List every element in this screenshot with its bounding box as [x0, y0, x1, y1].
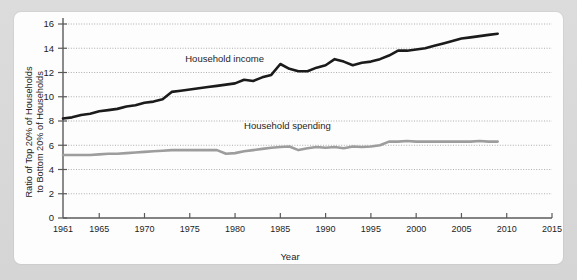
x-tick-label: 1965 [89, 224, 109, 234]
series-line-household-income [63, 34, 498, 119]
page-background: 0246810121416 19611965197019751980198519… [0, 0, 577, 280]
x-tick-label: 2005 [451, 224, 471, 234]
x-axis-ticks: 1961196519701975198019851990199520002005… [53, 213, 562, 234]
x-tick-label: 1975 [180, 224, 200, 234]
y-tick-label: 4 [49, 164, 54, 175]
x-tick-label: 1961 [53, 224, 73, 234]
y-tick-label: 16 [43, 18, 54, 29]
y-axis-title-line2: to Bottom 20% of Households [35, 71, 45, 193]
y-tick-label: 8 [49, 115, 54, 126]
chart-card: 0246810121416 19611965197019751980198519… [14, 12, 563, 264]
x-tick-label: 1995 [361, 224, 381, 234]
x-tick-label: 2015 [542, 224, 562, 234]
gridlines [63, 24, 552, 194]
x-tick-label: 2010 [497, 224, 517, 234]
y-tick-label: 2 [49, 188, 54, 199]
line-chart: 0246810121416 19611965197019751980198519… [14, 12, 563, 264]
x-tick-label: 1985 [270, 224, 290, 234]
y-tick-label: 0 [49, 212, 54, 223]
y-axis-title-line1: Ratio of Top 20% of Households [24, 66, 34, 197]
annotation-household-spending: Household spending [244, 120, 331, 131]
x-tick-label: 2000 [406, 224, 426, 234]
y-tick-label: 14 [43, 43, 54, 54]
y-tick-label: 12 [43, 67, 54, 78]
y-tick-label: 10 [43, 91, 54, 102]
y-tick-label: 6 [49, 140, 54, 151]
x-tick-label: 1990 [316, 224, 336, 234]
series-line-household-spending [63, 141, 498, 155]
chart-plot-area: 0246810121416 19611965197019751980198519… [14, 12, 563, 264]
x-tick-label: 1980 [225, 224, 245, 234]
x-tick-label: 1970 [134, 224, 154, 234]
x-axis-title: Year [280, 251, 299, 262]
annotation-household-income: Household income [185, 53, 264, 64]
page-top-caption [400, 0, 560, 6]
